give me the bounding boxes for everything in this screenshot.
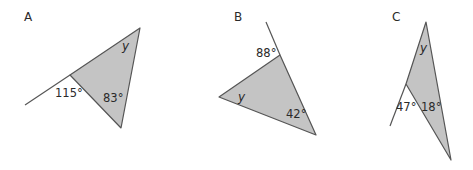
triangle-a-interior-angle: 83° (103, 91, 123, 105)
triangle-b-interior-angle: 42° (286, 107, 306, 121)
triangle-c-exterior-angle: 47° (396, 100, 416, 114)
triangle-b-exterior-angle: 88° (256, 46, 276, 60)
diagram-canvas: A y 83° 115° B 88° y 42° C y 47° 18° (0, 0, 473, 170)
triangle-b-label: B (234, 10, 242, 24)
triangle-a-exterior-angle: 115° (55, 86, 83, 100)
triangle-c (406, 22, 451, 160)
triangle-c-interior-angle: 18° (421, 100, 441, 114)
triangle-b-unknown-angle: y (237, 90, 246, 104)
triangle-c-label: C (392, 10, 400, 24)
triangle-b-group: B 88° y 42° (219, 10, 316, 135)
triangle-a-unknown-angle: y (121, 39, 130, 53)
triangle-a-group: A y 83° 115° (24, 10, 140, 128)
triangle-c-unknown-angle: y (419, 41, 428, 55)
triangle-a-label: A (24, 10, 33, 24)
triangle-a (70, 28, 140, 128)
triangle-c-group: C y 47° 18° (390, 10, 451, 160)
triangle-b (219, 55, 316, 135)
